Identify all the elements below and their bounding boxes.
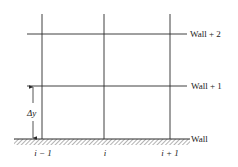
label-wall: Wall	[191, 134, 208, 144]
wall-hatch	[14, 139, 190, 145]
label-wall-plus-2: Wall + 2	[190, 29, 221, 39]
label-wall-plus-1: Wall + 1	[191, 81, 222, 91]
label-column-i: i	[104, 148, 107, 158]
label-column-i-plus-1: i + 1	[161, 148, 179, 158]
label-column-i-minus-1: i − 1	[34, 148, 52, 158]
finite-difference-grid-diagram: Δy Wall + 2 Wall + 1 Wall i − 1 i i + 1	[0, 0, 238, 167]
delta-y-label: Δy	[26, 108, 36, 118]
